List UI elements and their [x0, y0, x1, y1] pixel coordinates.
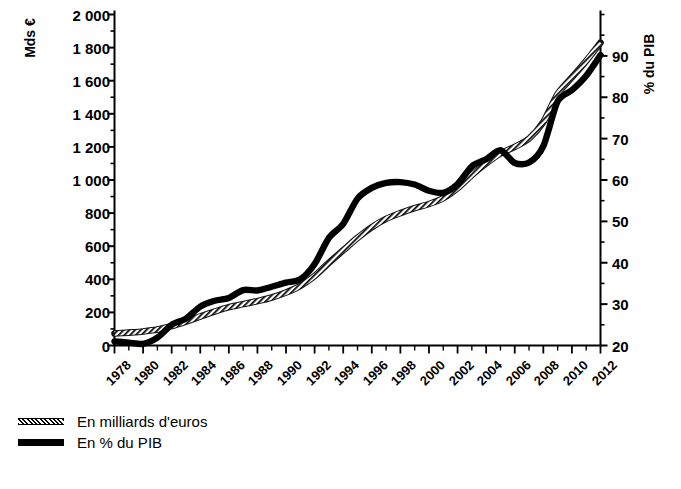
- legend-item: En % du PIB: [18, 432, 348, 453]
- legend-swatch-hatched-icon: [18, 418, 64, 425]
- legend-item: En milliards d'euros: [18, 411, 348, 432]
- legend-label: En milliards d'euros: [77, 414, 207, 429]
- chart-figure: Mds € % du PIB 02004006008001 0001 2001 …: [0, 0, 681, 489]
- chart-legend: En milliards d'euros En % du PIB: [18, 411, 348, 453]
- legend-label: En % du PIB: [77, 435, 162, 450]
- legend-swatch-solid-icon: [18, 439, 64, 446]
